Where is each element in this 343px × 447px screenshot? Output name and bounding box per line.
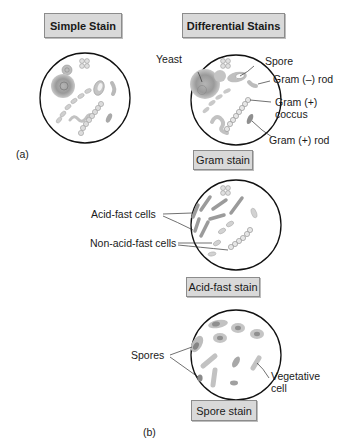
simple-stain-field bbox=[40, 53, 130, 143]
label-gram-positive-rod: Gram (+) rod bbox=[269, 134, 329, 146]
label-acid-fast-cells: Acid-fast cells bbox=[91, 208, 156, 220]
acid-fast-field bbox=[163, 180, 281, 270]
part-label-b: (b) bbox=[143, 426, 156, 438]
label-yeast: Yeast bbox=[156, 53, 182, 65]
spore-stain-caption: Spore stain bbox=[191, 400, 257, 421]
label-gram-positive-coccus-2: coccus bbox=[275, 108, 308, 120]
part-label-a: (a) bbox=[16, 148, 29, 160]
gram-stain-field bbox=[190, 55, 281, 145]
label-spores: Spores bbox=[131, 349, 164, 361]
label-gram-negative-rod: Gram (–) rod bbox=[273, 73, 333, 85]
label-gram-positive-coccus-1: Gram (+) bbox=[275, 96, 317, 108]
spore-stain-field bbox=[170, 310, 281, 400]
label-vegetative-1: Vegetative bbox=[271, 370, 320, 382]
label-non-acid-fast-cells: Non-acid-fast cells bbox=[90, 237, 176, 249]
gram-stain-caption: Gram stain bbox=[193, 150, 253, 170]
label-spore: Spore bbox=[265, 55, 293, 67]
acid-fast-stain-caption: Acid-fast stain bbox=[186, 277, 260, 297]
label-vegetative-2: cell bbox=[271, 382, 287, 394]
